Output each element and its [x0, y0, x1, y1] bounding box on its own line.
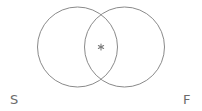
venn-diagram [0, 0, 202, 111]
set-f-label: F [183, 93, 190, 106]
asterisk-icon [98, 44, 103, 50]
set-s-label: S [10, 93, 18, 106]
set-f-circle [85, 7, 165, 87]
set-s-circle [38, 7, 118, 87]
venn-svg [0, 0, 202, 111]
